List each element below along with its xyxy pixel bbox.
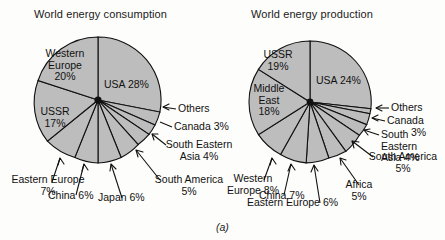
label-ussr: USSR 19% bbox=[255, 49, 301, 72]
label-south-america: South America 5% bbox=[150, 174, 228, 197]
label-south-eastern-asia: South Eastern Asia 4% bbox=[160, 139, 238, 162]
label-africa: Africa 5% bbox=[333, 179, 385, 202]
pie-hub bbox=[307, 99, 314, 106]
label-others: Others bbox=[178, 103, 210, 115]
label-middle-east: Middle East 18% bbox=[245, 83, 293, 118]
label-canada: Canada 3% bbox=[174, 121, 229, 133]
label-western-europe: Western Europe 20% bbox=[37, 48, 93, 83]
label-eastern-europe: Eastern Europe 7% bbox=[8, 174, 88, 197]
figure-caption: (a) bbox=[216, 221, 229, 233]
pie-hub bbox=[94, 96, 101, 103]
slice-usa[interactable] bbox=[98, 37, 161, 112]
label-usa: USA 28% bbox=[104, 79, 149, 91]
label-japan: Japan 6% bbox=[98, 192, 145, 204]
label-western-europe: Western Europe 8% bbox=[219, 173, 287, 196]
label-usa: USA 24% bbox=[316, 75, 361, 87]
figure-root: World energy consumption World energy pr… bbox=[0, 0, 445, 240]
label-south-america: South America 5% bbox=[362, 151, 444, 174]
label-ussr: USSR 17% bbox=[32, 106, 78, 129]
label-others: Others bbox=[391, 102, 423, 114]
